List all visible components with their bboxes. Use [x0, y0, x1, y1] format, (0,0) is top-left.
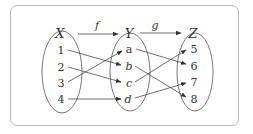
set-y-label: Y: [125, 26, 135, 41]
y-element-b: b: [125, 60, 132, 73]
f-map-2-to-c: [68, 67, 121, 82]
y-element-d: d: [124, 93, 131, 106]
x-element-4: 4: [58, 93, 65, 106]
g-label: g: [151, 19, 158, 32]
f-label: f: [94, 19, 101, 32]
z-element-6: 6: [191, 60, 198, 73]
g-map-c-to-5: [135, 50, 186, 82]
g-map-b-to-8: [135, 66, 186, 97]
g-map-d-to-7: [135, 83, 186, 98]
x-element-2: 2: [58, 61, 65, 74]
y-element-a: a: [126, 43, 133, 56]
z-element-5: 5: [191, 43, 198, 56]
z-element-8: 8: [191, 93, 198, 106]
set-x-label: X: [54, 26, 65, 41]
z-element-7: 7: [191, 76, 198, 89]
f-map-3-to-a: [68, 51, 122, 82]
set-z-label: Z: [187, 26, 198, 41]
x-element-3: 3: [58, 77, 65, 90]
mapping-diagram: X Y Z f g 1 2 3 4 a b c d 5 6 7 8: [0, 0, 253, 134]
y-element-c: c: [126, 77, 132, 90]
x-element-1: 1: [58, 44, 65, 57]
